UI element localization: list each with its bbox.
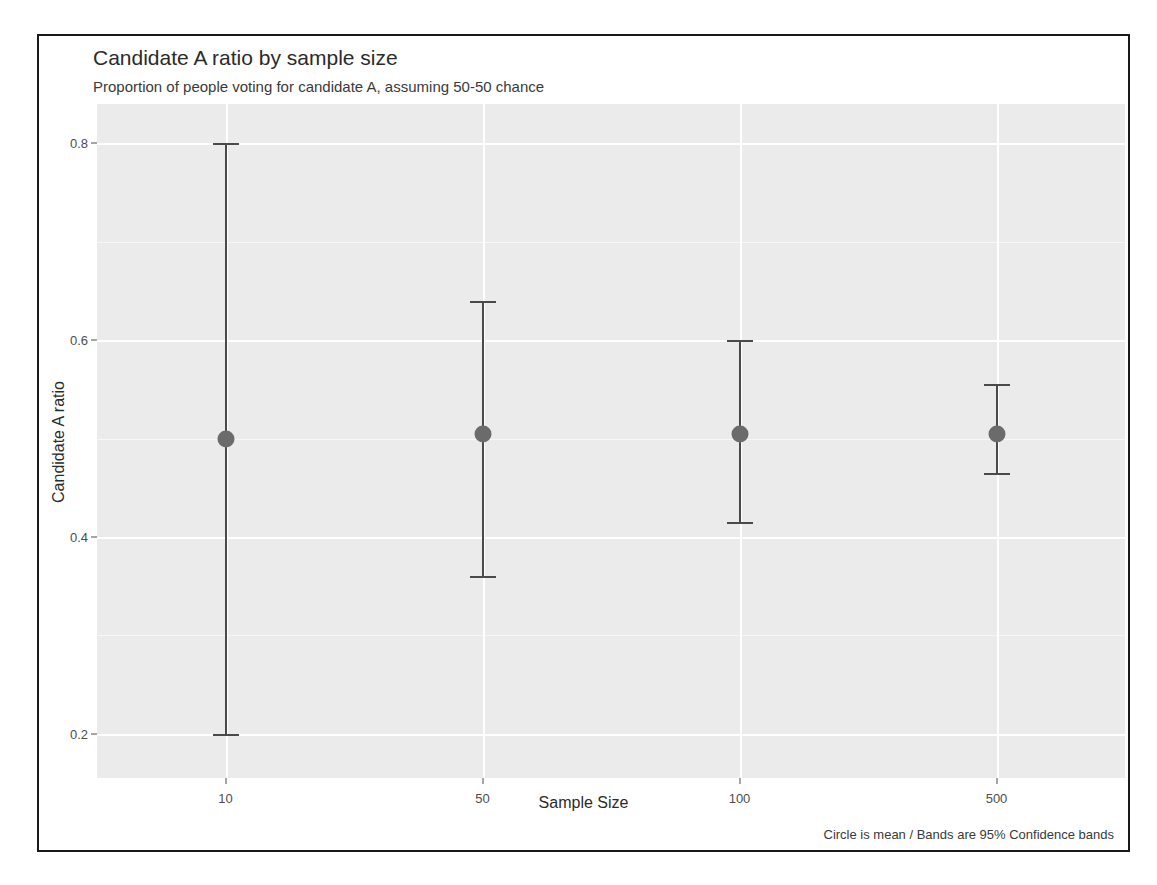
gridline-minor-0 bbox=[97, 635, 1125, 636]
error-bar-cap-lower bbox=[470, 576, 496, 578]
y-axis-tick-label: 0.6 bbox=[70, 333, 88, 348]
error-bar-cap-upper bbox=[213, 143, 239, 145]
error-bar-cap-lower bbox=[984, 473, 1010, 475]
chart-subtitle: Proportion of people voting for candidat… bbox=[93, 78, 544, 95]
plot-panel: 0.20.40.60.81050100500 bbox=[97, 104, 1125, 778]
x-axis-tick-mark bbox=[996, 778, 997, 784]
error-bar-cap-upper bbox=[470, 301, 496, 303]
y-axis-tick-mark bbox=[91, 143, 97, 144]
chart-title: Candidate A ratio by sample size bbox=[93, 46, 398, 70]
y-axis-tick-label: 0.2 bbox=[70, 726, 88, 741]
chart-figure: Candidate A ratio by sample size Proport… bbox=[39, 36, 1128, 850]
gridline-y-0.2 bbox=[97, 734, 1125, 736]
error-bar-cap-upper bbox=[727, 340, 753, 342]
gridline-minor-2 bbox=[97, 242, 1125, 243]
figure-border: Candidate A ratio by sample size Proport… bbox=[37, 34, 1130, 852]
mean-point-n50 bbox=[474, 425, 491, 442]
mean-point-n500 bbox=[988, 425, 1005, 442]
mean-point-n10 bbox=[217, 430, 234, 447]
error-bar-cap-upper bbox=[984, 384, 1010, 386]
gridline-y-0.4 bbox=[97, 537, 1125, 539]
x-axis-tick-mark bbox=[482, 778, 483, 784]
y-axis-tick-label: 0.4 bbox=[70, 529, 88, 544]
y-axis-title: Candidate A ratio bbox=[50, 342, 68, 542]
chart-caption: Circle is mean / Bands are 95% Confidenc… bbox=[824, 827, 1115, 842]
y-axis-tick-label: 0.8 bbox=[70, 136, 88, 151]
gridline-minor-1 bbox=[97, 439, 1125, 440]
error-bar-cap-lower bbox=[727, 522, 753, 524]
x-axis-tick-mark bbox=[739, 778, 740, 784]
y-axis-tick-mark bbox=[91, 536, 97, 537]
error-bar-cap-lower bbox=[213, 734, 239, 736]
x-axis-tick-mark bbox=[225, 778, 226, 784]
y-axis-tick-mark bbox=[91, 733, 97, 734]
gridline-y-0.6 bbox=[97, 340, 1125, 342]
mean-point-n100 bbox=[731, 425, 748, 442]
x-axis-title: Sample Size bbox=[39, 794, 1128, 812]
y-axis-tick-mark bbox=[91, 340, 97, 341]
gridline-y-0.8 bbox=[97, 143, 1125, 145]
